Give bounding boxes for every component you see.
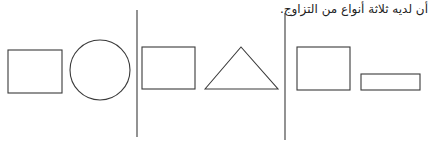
thin-rectangle-shape: [361, 74, 420, 90]
rectangle-shape: [297, 47, 350, 90]
group-3: [297, 47, 420, 90]
group-2: [142, 47, 278, 89]
triangle-shape: [205, 47, 278, 89]
shapes-diagram: [0, 0, 430, 146]
circle-shape: [70, 40, 130, 100]
group-1: [8, 40, 130, 100]
rectangle-shape: [142, 47, 195, 89]
rectangle-shape: [8, 50, 62, 93]
